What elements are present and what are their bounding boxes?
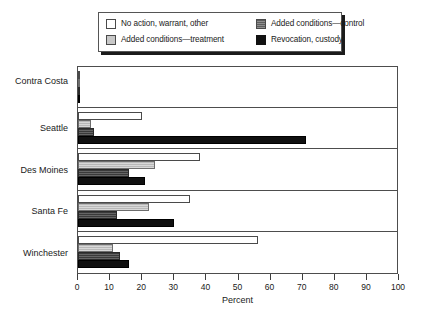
x-axis-tick (270, 274, 271, 280)
category-band (78, 191, 397, 232)
bar-row (78, 252, 397, 260)
bar-control[interactable] (78, 252, 120, 260)
x-axis-tick (302, 274, 303, 280)
x-axis-ticklabel: 50 (233, 282, 242, 292)
bar-revocation[interactable] (78, 136, 306, 144)
y-axis-label-des-moines: Des Moines (0, 165, 68, 176)
bar-row (78, 236, 397, 244)
x-axis-ticklabels: 0102030405060708090100 (77, 282, 398, 294)
legend-item-added-conditions-control: Added conditions—control (256, 19, 350, 29)
y-axis-label-santa-fe: Santa Fe (0, 206, 68, 217)
legend-label-no-action: No action, warrant, other (121, 20, 208, 28)
x-axis-tick (141, 274, 142, 280)
bar-row (78, 120, 397, 128)
x-axis-ticks (77, 274, 398, 282)
bar-row (78, 153, 397, 161)
bar-row (78, 203, 397, 211)
bar-row (78, 79, 397, 87)
bar-none[interactable] (78, 153, 200, 161)
legend-label-added-conditions-control: Added conditions—control (271, 20, 364, 28)
x-axis-tick (366, 274, 367, 280)
bar-row (78, 136, 397, 144)
x-axis-ticklabel: 60 (265, 282, 274, 292)
y-axis-label-winchester: Winchester (0, 248, 68, 259)
legend-item-added-conditions-treatment: Added conditions—treatment (106, 35, 256, 45)
bar-row (78, 112, 397, 120)
x-axis-ticklabel: 100 (391, 282, 405, 292)
bar-treatment[interactable] (78, 120, 91, 128)
x-axis-tick (173, 274, 174, 280)
x-axis-ticklabel: 40 (201, 282, 210, 292)
x-axis-tick (205, 274, 206, 280)
bar-control[interactable] (78, 169, 129, 177)
legend-grid: No action, warrant, other Added conditio… (99, 13, 341, 51)
bar-treatment[interactable] (78, 244, 113, 252)
bar-revocation[interactable] (78, 219, 174, 227)
legend-label-revocation-custody: Revocation, custody (271, 36, 343, 44)
bar-row (78, 169, 397, 177)
y-axis-label-contra-costa: Contra Costa (0, 76, 68, 87)
legend-swatch-added-conditions-control-icon (256, 19, 266, 29)
bar-none[interactable] (78, 112, 142, 120)
bar-row (78, 71, 397, 79)
bar-revocation[interactable] (78, 260, 129, 268)
x-axis-tick (109, 274, 110, 280)
bar-control[interactable] (78, 211, 117, 219)
category-band (78, 108, 397, 149)
x-axis-ticklabel: 10 (104, 282, 113, 292)
bar-none[interactable] (78, 236, 258, 244)
x-axis-ticklabel: 20 (136, 282, 145, 292)
bar-treatment[interactable] (78, 161, 155, 169)
legend-item-revocation-custody: Revocation, custody (256, 35, 350, 45)
chart-legend: No action, warrant, other Added conditio… (98, 12, 342, 52)
bar-row (78, 87, 397, 95)
x-axis-ticklabel: 70 (297, 282, 306, 292)
bar-none[interactable] (78, 71, 80, 79)
bar-revocation[interactable] (78, 95, 80, 103)
bar-row (78, 260, 397, 268)
bar-treatment[interactable] (78, 203, 149, 211)
x-axis-ticklabel: 80 (329, 282, 338, 292)
legend-swatch-added-conditions-treatment-icon (106, 35, 116, 45)
legend-swatch-revocation-custody-icon (256, 35, 266, 45)
x-axis-tick (398, 274, 399, 280)
bar-revocation[interactable] (78, 177, 145, 185)
bar-row (78, 161, 397, 169)
bar-row (78, 128, 397, 136)
legend-label-added-conditions-treatment: Added conditions—treatment (121, 36, 224, 44)
legend-item-no-action: No action, warrant, other (106, 19, 256, 29)
bar-row (78, 195, 397, 203)
x-axis-ticklabel: 0 (75, 282, 80, 292)
bar-treatment[interactable] (78, 79, 80, 87)
bar-row (78, 219, 397, 227)
bar-row (78, 177, 397, 185)
x-axis-ticklabel: 90 (361, 282, 370, 292)
bar-row (78, 95, 397, 103)
plot-area (77, 66, 398, 274)
bar-none[interactable] (78, 195, 190, 203)
x-axis-tick (238, 274, 239, 280)
y-axis-label-seattle: Seattle (0, 123, 68, 134)
category-band (78, 232, 397, 273)
category-band (78, 67, 397, 108)
bar-control[interactable] (78, 128, 94, 136)
y-axis-labels: Contra CostaSeattleDes MoinesSanta FeWin… (0, 66, 72, 274)
x-axis-tick (334, 274, 335, 280)
bar-control[interactable] (78, 87, 80, 95)
x-axis-title: Percent (77, 295, 398, 305)
x-axis-ticklabel: 30 (169, 282, 178, 292)
bar-row (78, 211, 397, 219)
category-band (78, 149, 397, 190)
x-axis-tick (77, 274, 78, 280)
legend-swatch-no-action-icon (106, 19, 116, 29)
bar-row (78, 244, 397, 252)
